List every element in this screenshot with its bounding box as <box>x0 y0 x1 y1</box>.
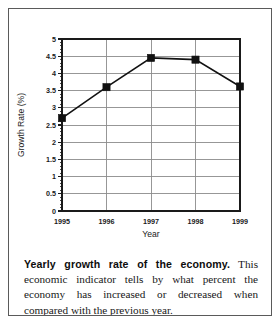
x-axis-tick-labels: 19951996199719981999 <box>54 217 248 226</box>
x-tick-label: 1995 <box>54 217 70 226</box>
x-tick-label: 1997 <box>143 217 159 226</box>
y-tick-label: 3.5 <box>46 86 56 95</box>
data-point-marker <box>103 84 110 91</box>
figure-card: 00.511.522.533.544.55 199519961997199819… <box>8 8 272 316</box>
y-tick-label: 2.5 <box>46 121 56 130</box>
data-point-marker <box>147 54 154 61</box>
growth-rate-line-chart: 00.511.522.533.544.55 199519961997199819… <box>9 9 272 241</box>
caption-paragraph: Yearly growth rate of the economy. This … <box>24 257 258 316</box>
y-tick-label: 3 <box>52 103 56 112</box>
x-tick-label: 1996 <box>99 217 115 226</box>
y-axis-tick-labels: 00.511.522.533.544.55 <box>46 35 56 216</box>
data-point-marker <box>58 115 65 122</box>
x-tick-label: 1998 <box>188 217 204 226</box>
x-tick-label: 1999 <box>232 217 248 226</box>
y-axis-title: Growth Rate (%) <box>16 93 26 157</box>
chart-container: 00.511.522.533.544.55 199519961997199819… <box>9 9 272 241</box>
data-point-marker <box>236 83 243 90</box>
data-point-marker <box>192 56 199 63</box>
figure-caption: Yearly growth rate of the economy. This … <box>24 257 258 316</box>
x-axis-title: Year <box>142 229 160 239</box>
y-tick-label: 0 <box>52 207 56 216</box>
y-tick-label: 2 <box>52 138 56 147</box>
y-tick-label: 1.5 <box>46 155 56 164</box>
y-tick-label: 0.5 <box>46 189 56 198</box>
y-tick-label: 5 <box>52 35 56 44</box>
y-tick-label: 1 <box>52 172 56 181</box>
y-tick-label: 4.5 <box>46 52 56 61</box>
caption-lead-in: Yearly growth rate of the economy. <box>24 258 230 270</box>
y-tick-label: 4 <box>52 69 56 78</box>
